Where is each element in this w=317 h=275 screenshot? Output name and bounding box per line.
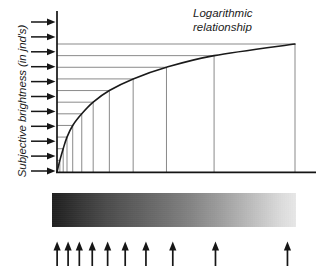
arrow-right-icon xyxy=(31,138,56,145)
intensity-arrows xyxy=(54,242,292,267)
arrow-up-icon xyxy=(104,242,111,267)
subjective-brightness-arrows xyxy=(31,19,56,175)
arrow-right-icon xyxy=(31,168,56,175)
arrow-right-icon xyxy=(31,108,56,115)
arrow-right-icon xyxy=(31,48,56,55)
arrow-right-icon xyxy=(31,34,56,41)
arrow-up-icon xyxy=(122,242,129,267)
arrow-up-icon xyxy=(89,242,96,267)
arrow-up-icon xyxy=(169,242,176,267)
arrow-up-icon xyxy=(76,242,83,267)
arrow-up-icon xyxy=(212,242,219,267)
arrow-up-icon xyxy=(284,242,291,267)
figure-logarithmic-brightness: Subjective brightness (in jnd's) Logarit… xyxy=(0,0,317,275)
arrow-right-icon xyxy=(31,19,56,26)
vertical-droplines xyxy=(60,44,295,172)
grayscale-gradient-bar xyxy=(52,193,296,227)
arrow-right-icon xyxy=(31,123,56,130)
arrow-up-icon xyxy=(65,242,72,267)
arrow-right-icon xyxy=(31,78,56,85)
arrow-up-icon xyxy=(142,242,149,267)
arrow-up-icon xyxy=(54,242,61,267)
logarithmic-curve xyxy=(57,44,295,172)
plot-area xyxy=(0,0,317,275)
arrow-right-icon xyxy=(31,93,56,100)
arrow-right-icon xyxy=(31,153,56,160)
arrow-right-icon xyxy=(31,63,56,70)
